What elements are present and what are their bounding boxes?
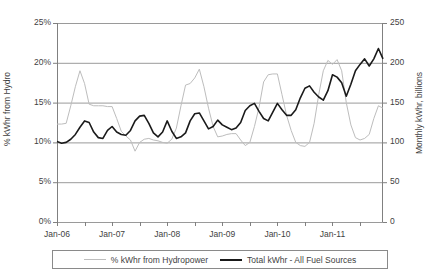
legend-label-total: Total kWhr - All Fuel Sources	[247, 255, 356, 265]
x-tick-label: Jan-10	[249, 229, 305, 239]
legend-line-icon-hydro	[84, 259, 106, 260]
x-tick-label: Jan-09	[194, 229, 250, 239]
x-tick-label: Jan-11	[304, 229, 360, 239]
legend: % kWhr from Hydropower Total kWhr - All …	[52, 250, 388, 269]
legend-entry-hydro: % kWhr from Hydropower	[84, 255, 208, 265]
legend-label-hydro: % kWhr from Hydropower	[111, 255, 208, 265]
y-tick-label-left: 15%	[17, 97, 51, 107]
x-tick-label: Jan-06	[29, 229, 85, 239]
y-tick-label-left: 25%	[17, 17, 51, 27]
legend-entry-total: Total kWhr - All Fuel Sources	[220, 255, 356, 265]
y-tick-label-left: 20%	[17, 57, 51, 67]
x-tick-label: Jan-08	[139, 229, 195, 239]
right-axis-title: Monthly kWhr, billions	[412, 0, 426, 225]
y-tick-label-right: 250	[390, 17, 420, 27]
y-tick-label-right: 50	[390, 176, 420, 186]
x-tick-label: Jan-07	[84, 229, 140, 239]
y-tick-label-left: 5%	[17, 176, 51, 186]
y-tick-label-right: 0	[390, 216, 420, 226]
y-tick-label-right: 200	[390, 57, 420, 67]
hydro-series-line	[57, 60, 383, 152]
hydropower-chart: % kWhr from Hydro Monthly kWhr, billions…	[0, 0, 426, 278]
y-tick-label-right: 100	[390, 136, 420, 146]
left-axis-title: % kWhr from Hydro	[0, 0, 14, 218]
legend-line-icon-total	[220, 259, 242, 261]
y-tick-label-left: 10%	[17, 136, 51, 146]
left-axis-title-text: % kWhr from Hydro	[2, 72, 12, 146]
y-tick-label-right: 150	[390, 97, 420, 107]
y-tick-label-left: 0%	[17, 216, 51, 226]
